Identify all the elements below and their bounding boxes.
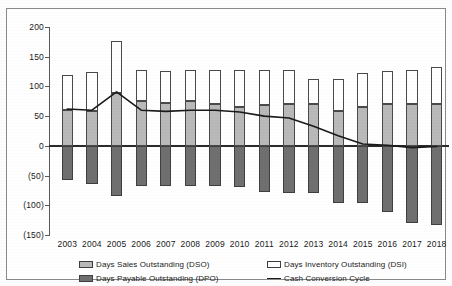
bar-segment-dpo <box>160 146 171 186</box>
bar-segment-dpo <box>62 146 73 180</box>
bar-segment-dso <box>259 105 270 146</box>
y-tick-label: 100 <box>29 81 44 91</box>
legend-item[interactable]: Days Inventory Outstanding (DSI) <box>267 260 407 269</box>
x-axis-labels: 2003200420052006200720082009201020112012… <box>49 239 449 253</box>
bar-segment-dsi <box>234 70 245 106</box>
x-tick-label: 2008 <box>181 239 201 249</box>
y-tick-mark <box>45 176 50 177</box>
bar-segment-dpo <box>185 146 196 186</box>
bar-segment-dso <box>234 107 245 146</box>
y-tick-label: (150) <box>23 230 44 240</box>
bar-segment-dsi <box>136 70 147 101</box>
bar-column <box>209 19 220 235</box>
legend-swatch-icon <box>79 275 93 282</box>
bar-segment-dso <box>136 101 147 146</box>
bar-segment-dsi <box>185 70 196 101</box>
bar-segment-dsi <box>111 41 122 93</box>
chart-frame: 200150100500(50)(100)(150) 2003200420052… <box>6 8 446 280</box>
legend-line-icon <box>267 278 281 279</box>
y-tick-mark <box>45 235 50 236</box>
plot-canvas: 200150100500(50)(100)(150) <box>49 19 449 235</box>
bar-column <box>234 19 245 235</box>
bar-segment-dso <box>209 104 220 146</box>
legend-label: Days Inventory Outstanding (DSI) <box>284 260 407 269</box>
plot-area: 200150100500(50)(100)(150) <box>49 19 449 235</box>
y-tick-mark <box>45 57 50 58</box>
bar-segment-dsi <box>333 79 344 112</box>
bar-segment-dsi <box>209 70 220 104</box>
legend-swatch-icon <box>79 261 93 268</box>
bar-column <box>333 19 344 235</box>
bar-segment-dso <box>431 104 442 146</box>
y-tick-label: 50 <box>34 111 44 121</box>
bar-column <box>308 19 319 235</box>
x-tick-label: 2006 <box>131 239 151 249</box>
legend-swatch-icon <box>267 261 281 268</box>
x-tick-label: 2016 <box>378 239 398 249</box>
x-tick-label: 2009 <box>205 239 225 249</box>
legend-item[interactable]: Days Sales Outstanding (DSO) <box>79 260 210 269</box>
bar-column <box>111 19 122 235</box>
bar-segment-dpo <box>431 146 442 225</box>
y-tick-mark <box>45 86 50 87</box>
bar-segment-dso <box>382 104 393 146</box>
bar-segment-dpo <box>234 146 245 188</box>
bar-segment-dso <box>185 101 196 146</box>
x-tick-label: 2017 <box>402 239 422 249</box>
bar-segment-dpo <box>209 146 220 186</box>
chart-legend: Days Sales Outstanding (DSO)Days Invento… <box>19 259 445 286</box>
bar-segment-dsi <box>357 73 368 107</box>
bar-column <box>62 19 73 235</box>
y-tick-label: (50) <box>28 171 44 181</box>
bar-segment-dso <box>308 104 319 146</box>
bar-column <box>160 19 171 235</box>
y-tick-mark <box>45 27 50 28</box>
bar-segment-dso <box>333 111 344 145</box>
bar-segment-dso <box>406 104 417 146</box>
bar-segment-dso <box>62 110 73 146</box>
x-tick-label: 2005 <box>107 239 127 249</box>
bar-segment-dpo <box>136 146 147 186</box>
y-tick-label: 200 <box>29 22 44 32</box>
bar-column <box>86 19 97 235</box>
bar-column <box>259 19 270 235</box>
bar-column <box>431 19 442 235</box>
x-tick-label: 2013 <box>304 239 324 249</box>
bar-segment-dsi <box>62 75 73 110</box>
bar-segment-dsi <box>382 71 393 104</box>
legend-item[interactable]: Cash Conversion Cycle <box>267 274 370 283</box>
y-tick-mark <box>45 205 50 206</box>
bar-column <box>283 19 294 235</box>
bar-segment-dsi <box>160 71 171 103</box>
y-tick-label: 0 <box>39 141 44 151</box>
bar-column <box>406 19 417 235</box>
x-tick-label: 2014 <box>328 239 348 249</box>
bar-segment-dso <box>160 103 171 146</box>
bar-segment-dsi <box>86 72 97 111</box>
bar-segment-dpo <box>333 146 344 203</box>
legend-label: Days Sales Outstanding (DSO) <box>96 260 210 269</box>
bar-column <box>136 19 147 235</box>
x-tick-label: 2018 <box>427 239 447 249</box>
bar-segment-dsi <box>259 70 270 104</box>
legend-label: Cash Conversion Cycle <box>284 274 370 283</box>
legend-item[interactable]: Days Payable Outstanding (DPO) <box>79 274 219 283</box>
chart-figure: 200150100500(50)(100)(150) 2003200420052… <box>0 0 452 286</box>
bar-segment-dpo <box>283 146 294 194</box>
legend-label: Days Payable Outstanding (DPO) <box>96 274 219 283</box>
x-tick-label: 2004 <box>82 239 102 249</box>
x-tick-label: 2010 <box>230 239 250 249</box>
bar-segment-dpo <box>406 146 417 223</box>
bar-segment-dso <box>86 111 97 146</box>
bar-segment-dpo <box>357 146 368 204</box>
x-tick-label: 2015 <box>353 239 373 249</box>
bar-segment-dsi <box>308 79 319 104</box>
x-tick-label: 2012 <box>279 239 299 249</box>
bar-segment-dpo <box>308 146 319 194</box>
y-tick-mark <box>45 116 50 117</box>
bar-segment-dpo <box>111 146 122 197</box>
bar-column <box>382 19 393 235</box>
bar-segment-dpo <box>86 146 97 185</box>
bar-segment-dpo <box>259 146 270 192</box>
bar-segment-dso <box>111 93 122 146</box>
